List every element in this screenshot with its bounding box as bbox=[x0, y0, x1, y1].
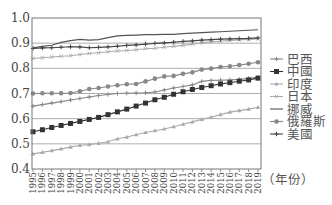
y-tick-label: 0.5 bbox=[11, 137, 30, 151]
legend: 巴西中國印度日本挪威俄羅斯美國 bbox=[270, 52, 326, 142]
y-tick-label: 0.9 bbox=[11, 36, 30, 50]
legend-item: 美國 bbox=[270, 127, 313, 142]
line-chart: 0.40.50.60.70.80.91.0 199519961997199819… bbox=[0, 0, 332, 205]
legend-label: 美國 bbox=[287, 127, 313, 142]
series-line bbox=[31, 105, 260, 155]
series-line bbox=[31, 37, 260, 60]
y-tick-label: 0.6 bbox=[11, 112, 30, 126]
y-axis-ticks: 0.40.50.60.70.80.91.0 bbox=[11, 11, 30, 176]
y-tick-label: 0.7 bbox=[11, 87, 30, 101]
y-tick-label: 0.8 bbox=[11, 61, 30, 75]
y-tick-label: 1.0 bbox=[11, 11, 30, 25]
series-line bbox=[31, 76, 261, 135]
x-axis-ticks: 1995199619971998199920002001200220032004… bbox=[28, 169, 263, 194]
series-line bbox=[31, 60, 261, 96]
data-series bbox=[31, 30, 261, 156]
x-axis-label: （年份） bbox=[262, 172, 314, 187]
